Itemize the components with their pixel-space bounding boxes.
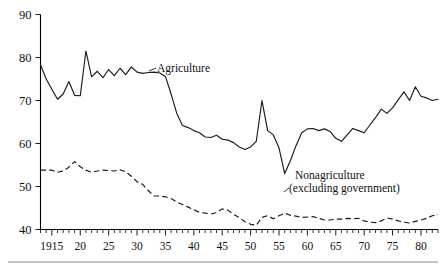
nonagriculture-label-line1: Nonagriculture [295,169,365,182]
x-axis-tick-label: 25 [103,240,115,252]
x-axis-tick-label: 70 [358,240,370,252]
x-axis-tick-label: 80 [415,240,427,252]
y-axis-tick-label: 90 [19,8,32,22]
x-axis-tick-label: 35 [160,240,172,252]
x-axis-tick-label: 55 [273,240,285,252]
x-axis-tick-label: 75 [387,240,399,252]
x-axis-tick-label: 45 [216,240,228,252]
chart-svg: 405060708090 191520253035404550556065707… [0,0,446,268]
chart-background [0,0,446,268]
y-axis-tick-label: 40 [19,223,32,237]
y-axis-tick-label: 70 [19,94,32,108]
y-axis-tick-label: 80 [19,51,32,65]
x-axis-tick-label: 20 [75,240,87,252]
nonagriculture-label-line2: (excluding government) [289,182,400,195]
y-axis-tick-label: 50 [19,180,32,194]
x-axis-tick-label: 40 [188,240,200,252]
agriculture-label: Agriculture [157,62,210,75]
x-axis-tick-label: 65 [330,240,342,252]
x-axis-tick-label: 60 [302,240,314,252]
x-axis-tick-label: 30 [131,240,143,252]
chart-container: 405060708090 191520253035404550556065707… [0,0,446,268]
y-axis-tick-label: 60 [19,137,32,151]
x-axis-tick-label: 1915 [40,240,63,252]
x-axis-tick-label: 50 [245,240,257,252]
